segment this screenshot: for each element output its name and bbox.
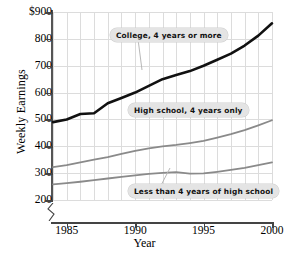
x-tick-mark xyxy=(204,222,206,228)
series-label: College, 4 years or more xyxy=(110,28,228,42)
y-tick-mark xyxy=(45,200,53,202)
series-line xyxy=(53,162,272,184)
y-tick-mark xyxy=(45,119,53,121)
y-tick-mark xyxy=(45,66,53,68)
chart-container: Weekly Earnings Year $900800700600500400… xyxy=(0,0,289,255)
x-tick-mark xyxy=(272,222,274,228)
y-tick-mark xyxy=(45,173,53,175)
x-tick-mark xyxy=(135,222,137,228)
y-tick-mark xyxy=(45,93,53,95)
series-label: High school, 4 years only xyxy=(128,103,249,117)
series-label: Less than 4 years of high school xyxy=(128,184,279,198)
x-axis-title: Year xyxy=(0,236,289,251)
x-tick-mark xyxy=(67,222,69,228)
label-leader-line xyxy=(138,39,142,70)
series-line xyxy=(53,120,272,167)
y-tick-mark xyxy=(45,39,53,41)
x-tick-label: 2000 xyxy=(244,225,289,237)
y-tick-mark xyxy=(45,146,53,148)
y-tick-mark xyxy=(45,12,53,14)
